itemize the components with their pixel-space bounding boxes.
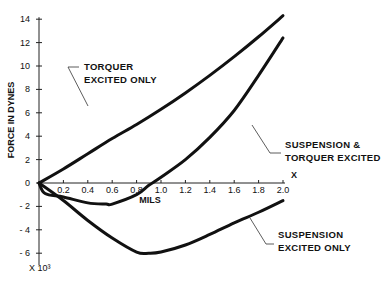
y-tick-label: 4 — [25, 131, 30, 141]
force-vs-displacement-chart: 14121086420- 2- 4- 60.20.40.60.81.01.21.… — [0, 0, 382, 285]
suspension-torquer-excited-label: SUSPENSION & — [285, 139, 360, 150]
x-tick-label: 2.0 — [277, 185, 290, 195]
y-tick-label: 10 — [20, 61, 30, 71]
data-series — [39, 16, 283, 254]
suspension-excited-only-label: EXCITED ONLY — [278, 242, 351, 253]
y-multiplier-label: X 10³ — [29, 263, 51, 273]
y-tick-label: 6 — [25, 108, 30, 118]
y-tick-label: 8 — [25, 84, 30, 94]
x-tick-label: 0.2 — [57, 185, 70, 195]
x-tick-label: 0.6 — [106, 185, 119, 195]
x-tick-label: 1.2 — [179, 185, 192, 195]
torquer-excited-only-label: EXCITED ONLY — [84, 74, 157, 85]
y-tick-label: 12 — [20, 38, 30, 48]
axes: 14121086420- 2- 4- 60.20.40.60.81.01.21.… — [6, 14, 297, 273]
suspension-excited-only-label-leader — [250, 218, 274, 244]
x-tick-label: 1.0 — [155, 185, 168, 195]
x-axis-title: MILS — [139, 195, 161, 205]
y-tick-label: 0 — [25, 178, 30, 188]
torquer-excited-only-label-leader — [68, 67, 88, 106]
annotations: TORQUEREXCITED ONLYSUSPENSION &TORQUER E… — [68, 61, 381, 253]
torquer-excited-only-curve — [39, 16, 283, 183]
suspension-and-torquer-excited-curve — [39, 38, 283, 205]
suspension-torquer-excited-label-leader — [252, 125, 281, 153]
x-tick-label: 1.6 — [228, 185, 241, 195]
x-axis-end-label: X — [291, 170, 297, 180]
torquer-excited-only-label: TORQUER — [84, 61, 133, 72]
y-tick-label: 14 — [20, 14, 30, 24]
y-tick-label: - 4 — [19, 225, 30, 235]
y-tick-label: 2 — [25, 155, 30, 165]
suspension-excited-only-label: SUSPENSION — [278, 229, 343, 240]
y-tick-label: - 2 — [19, 201, 30, 211]
y-tick-label: - 6 — [19, 248, 30, 258]
x-tick-label: 1.8 — [252, 185, 265, 195]
x-tick-label: 0.4 — [82, 185, 95, 195]
x-tick-label: 1.4 — [204, 185, 217, 195]
suspension-torquer-excited-label: TORQUER EXCITED — [285, 152, 381, 163]
y-axis-title: FORCE IN DYNES — [6, 82, 16, 159]
